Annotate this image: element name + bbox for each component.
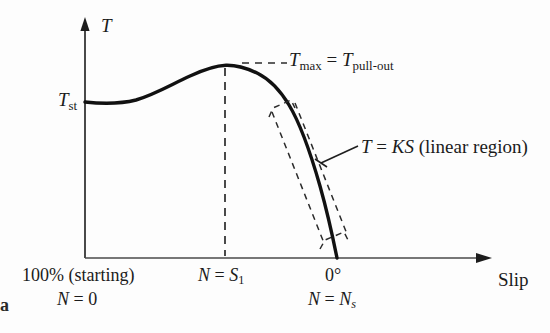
x-tick-label-zero-degrees: 0° — [325, 266, 341, 284]
figure-corner-mark: a — [0, 296, 9, 314]
x-tick-label-starting: 100% (starting) — [22, 266, 134, 284]
tst-subscript: st — [69, 98, 78, 113]
x-axis-arrowhead-icon — [476, 253, 492, 263]
linear-region-bracket — [269, 100, 348, 249]
tmax-symbol: T — [289, 49, 300, 70]
x-axis-label: Slip — [498, 270, 529, 289]
torque-slip-figure: T Tst Tmax = Tpull-out T = KS (linear re… — [0, 0, 550, 333]
y-axis-arrowhead-icon — [80, 17, 89, 31]
x-axis — [85, 253, 492, 263]
tmax-equals: = — [327, 49, 338, 70]
n-zero-symbol: N — [57, 289, 69, 309]
n-zero-value: 0 — [88, 289, 97, 309]
tpullout-subscript: pull-out — [353, 58, 394, 73]
nns-equals: = — [325, 289, 335, 309]
tmax-subscript: max — [300, 58, 322, 73]
y-axis-label: T — [101, 16, 112, 35]
nns-value: N — [339, 289, 351, 309]
linear-region-leader-line — [321, 146, 358, 163]
tks-equals: = — [376, 136, 387, 157]
ns1-value: S — [229, 265, 238, 285]
tks-expression: KS — [392, 136, 414, 157]
nns-symbol: N — [308, 289, 320, 309]
tks-note: (linear region) — [419, 136, 528, 157]
y-axis-tick-label-tst: Tst — [58, 90, 77, 113]
tpullout-symbol: T — [342, 49, 353, 70]
ns1-equals: = — [215, 265, 225, 285]
n-zero-equals: = — [74, 289, 84, 309]
y-axis — [80, 17, 89, 258]
torque-slip-curve — [85, 65, 337, 258]
x-tick-sublabel-n-zero: N = 0 — [57, 290, 97, 308]
ns1-symbol: N — [198, 265, 210, 285]
linear-region-leader — [315, 146, 358, 167]
tst-symbol: T — [58, 89, 69, 110]
tks-symbol: T — [361, 136, 372, 157]
bracket-right-edge — [295, 103, 347, 234]
x-tick-sublabel-n-ns: N = Ns — [308, 290, 356, 311]
ns1-subscript: 1 — [238, 273, 244, 287]
annotation-tmax-pullout: Tmax = Tpull-out — [289, 50, 393, 73]
annotation-linear-region: T = KS (linear region) — [361, 137, 528, 156]
x-tick-label-n-s1: N = S1 — [198, 266, 244, 287]
nns-subscript: s — [351, 297, 356, 311]
